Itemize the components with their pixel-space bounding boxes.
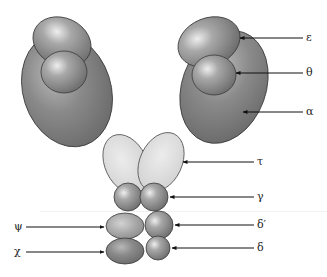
label-tau: τ	[257, 156, 263, 168]
chi-subunit	[106, 238, 144, 264]
subunit-diagram	[0, 0, 327, 277]
psi-subunit	[106, 213, 144, 239]
delta-prime-subunit	[145, 211, 173, 239]
label-delta: δ	[257, 242, 264, 254]
label-epsilon: ε	[306, 32, 312, 44]
label-psi: ψ	[14, 221, 23, 233]
gamma-subunit-right	[140, 183, 168, 211]
left-theta-subunit	[41, 51, 87, 93]
gamma-subunit-left	[114, 183, 142, 211]
label-gamma: γ	[257, 191, 264, 203]
right-theta-subunit	[192, 55, 236, 95]
label-alpha: α	[306, 106, 313, 118]
label-chi: χ	[14, 246, 21, 258]
label-delta-prime: δ′	[257, 219, 266, 231]
label-theta: θ	[306, 67, 313, 79]
delta-subunit	[146, 236, 170, 260]
